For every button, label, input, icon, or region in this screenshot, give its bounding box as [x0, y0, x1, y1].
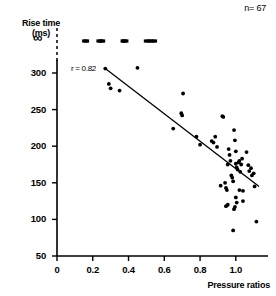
data-point	[198, 143, 202, 147]
data-point	[228, 153, 232, 157]
data-point	[235, 201, 239, 205]
data-point	[229, 159, 233, 163]
x-tick-label: 1.0	[223, 264, 249, 275]
data-point	[213, 135, 217, 139]
censored-data-point	[152, 39, 157, 42]
censored-points-group	[82, 39, 157, 42]
data-point	[232, 128, 236, 132]
data-point	[245, 150, 249, 154]
data-point	[227, 147, 231, 151]
data-point	[171, 127, 175, 131]
data-point	[181, 92, 185, 96]
y-tick-label: 150	[16, 177, 46, 188]
data-point	[107, 82, 111, 86]
data-point	[246, 163, 250, 167]
censored-data-point	[84, 39, 89, 42]
regression-fit-line	[105, 69, 259, 187]
data-point	[225, 188, 229, 192]
y-tick-label: 250	[16, 104, 46, 115]
data-point	[109, 86, 113, 90]
x-tick-label: 0.6	[151, 264, 177, 275]
data-point	[241, 199, 245, 203]
y-tick-label: 300	[16, 67, 46, 78]
data-point	[215, 145, 219, 149]
data-point	[180, 114, 184, 118]
data-point	[233, 138, 237, 142]
data-point	[253, 185, 257, 189]
x-tick-label: 0.4	[116, 264, 142, 275]
x-tick-label: 0.8	[187, 264, 213, 275]
data-point	[237, 188, 241, 192]
data-point	[240, 157, 244, 161]
chart-figure: n= 67 Rise time (ms) ∞ r = 0.82 Pressure…	[0, 0, 276, 296]
y-tick-label: 50	[16, 250, 46, 261]
y-tick-label: 200	[16, 140, 46, 151]
data-point	[241, 189, 245, 193]
data-points-group	[103, 66, 258, 232]
data-point	[226, 203, 230, 207]
data-point	[234, 196, 238, 200]
data-point	[239, 163, 243, 167]
data-point	[249, 166, 253, 170]
censored-data-point	[123, 39, 128, 42]
axes	[57, 60, 268, 256]
data-point	[223, 181, 227, 185]
x-tick-label: 0.2	[80, 264, 106, 275]
data-point	[118, 89, 122, 93]
data-point	[231, 179, 235, 183]
data-point	[230, 176, 234, 180]
data-point	[254, 220, 258, 224]
data-point	[234, 149, 238, 153]
data-point	[221, 115, 225, 119]
data-point	[252, 171, 256, 175]
data-point	[231, 228, 235, 232]
data-point	[219, 184, 223, 188]
x-tick-label: 0	[44, 264, 70, 275]
data-point	[232, 207, 236, 211]
data-point	[212, 141, 216, 145]
y-tick-label: 100	[16, 213, 46, 224]
censored-data-point	[100, 39, 105, 42]
data-point	[136, 66, 140, 70]
